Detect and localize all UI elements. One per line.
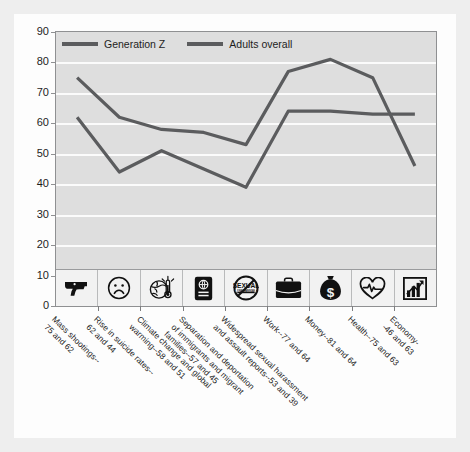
x-axis-category-labels: Mass shootings-- 75 and 62Rise in suicid… xyxy=(55,310,437,450)
money-bag-icon: $ xyxy=(319,275,342,301)
y-axis-tick-label: 20 xyxy=(19,239,49,250)
category-icon-strip: SEXUALHARASSMENT$ xyxy=(56,269,436,306)
no-sexual-harassment-icon: SEXUALHARASSMENT xyxy=(233,275,259,301)
legend-line-swatch xyxy=(62,42,98,46)
series-line xyxy=(77,111,415,187)
figure-canvas: Percent feeling stressed by issues in th… xyxy=(0,0,470,452)
category-icon-cell xyxy=(268,270,310,306)
category-icon-cell xyxy=(141,270,183,306)
y-axis-tick-label: 30 xyxy=(19,209,49,220)
heart-pulse-icon xyxy=(359,277,386,300)
category-icon-cell xyxy=(98,270,140,306)
handgun-icon xyxy=(64,279,90,297)
y-axis-tick-label: 90 xyxy=(19,26,49,37)
briefcase-icon xyxy=(275,277,302,299)
svg-text:HARASSMENT: HARASSMENT xyxy=(235,289,257,293)
legend-item[interactable]: Adults overall xyxy=(187,38,292,50)
y-axis-tick-label: 0 xyxy=(19,300,49,311)
plot-area: Generation ZAdults overall SEXUALHARASSM… xyxy=(55,31,437,307)
sad-face-icon xyxy=(107,276,131,300)
category-icon-cell xyxy=(56,270,98,306)
category-icon-cell xyxy=(395,270,436,306)
legend-item[interactable]: Generation Z xyxy=(62,38,165,50)
category-icon-cell xyxy=(352,270,394,306)
legend-label: Generation Z xyxy=(104,38,165,50)
chart-legend: Generation ZAdults overall xyxy=(62,38,314,50)
globe-thermometer-icon xyxy=(148,275,175,301)
svg-text:$: $ xyxy=(327,285,335,300)
legend-label: Adults overall xyxy=(229,38,292,50)
series-lines xyxy=(56,32,436,306)
passport-icon xyxy=(194,276,213,301)
y-axis-tick-label: 40 xyxy=(19,178,49,189)
category-icon-cell: $ xyxy=(310,270,352,306)
legend-line-swatch xyxy=(187,42,223,46)
y-axis-tick-label: 80 xyxy=(19,56,49,67)
category-icon-cell xyxy=(183,270,225,306)
y-axis-tick-label: 70 xyxy=(19,87,49,98)
y-axis-tick-label: 60 xyxy=(19,117,49,128)
y-axis-tick-label: 10 xyxy=(19,270,49,281)
bar-chart-arrow-icon xyxy=(403,277,427,300)
category-icon-cell: SEXUALHARASSMENT xyxy=(225,270,267,306)
y-axis-tick-label: 50 xyxy=(19,148,49,159)
